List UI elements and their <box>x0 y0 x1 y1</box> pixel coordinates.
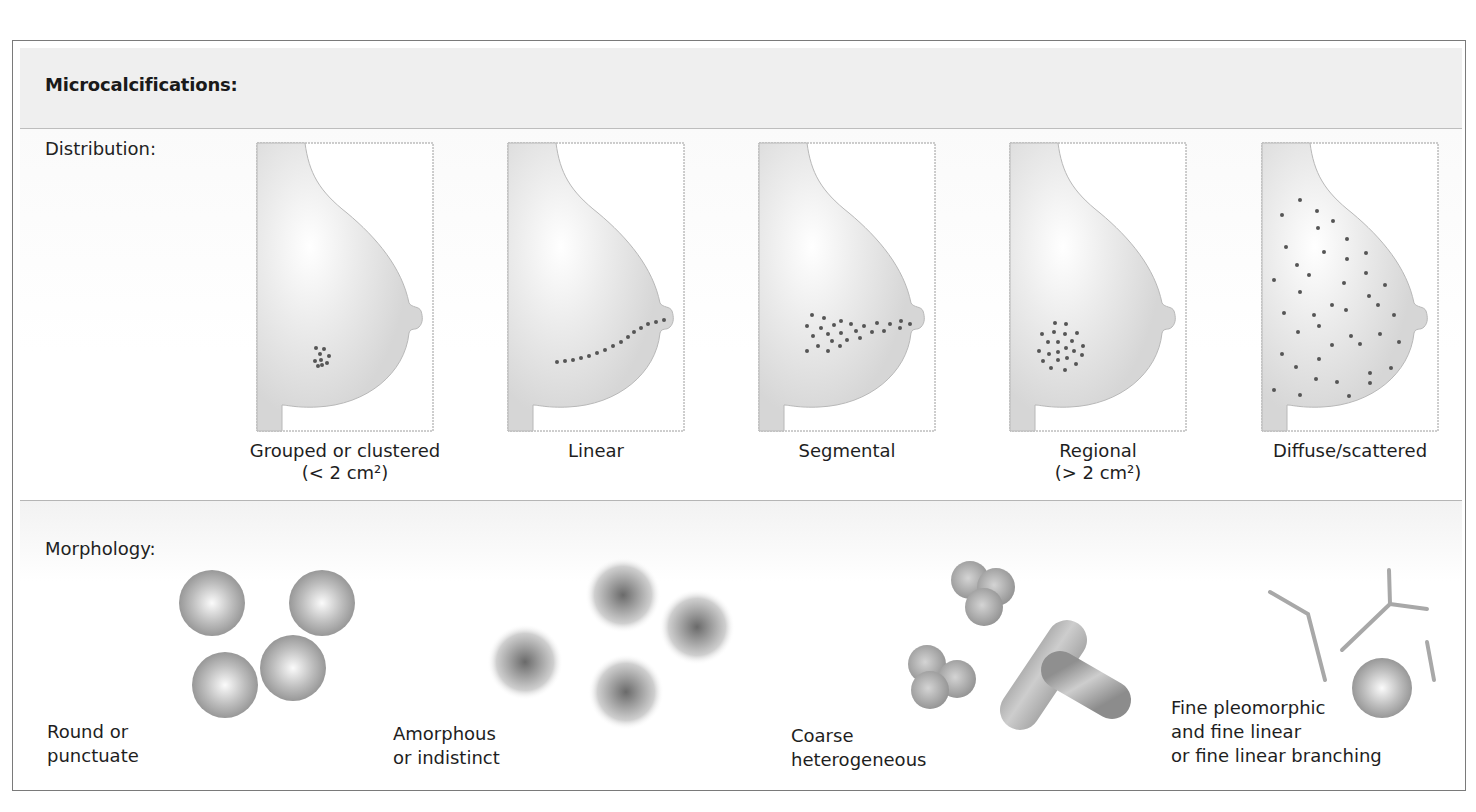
panel-segmental <box>759 143 935 431</box>
caption-grouped: Grouped or clustered (< 2 cm²) <box>230 440 460 484</box>
caption-regional: Regional (> 2 cm²) <box>1010 440 1186 484</box>
caption-line: Segmental <box>759 440 935 462</box>
caption-linear: Linear <box>508 440 684 462</box>
caption-line: Amorphous <box>393 722 500 746</box>
panel-linear <box>508 143 684 431</box>
caption-line: punctuate <box>47 744 139 768</box>
caption-line: (> 2 cm²) <box>1010 462 1186 484</box>
caption-line: Linear <box>508 440 684 462</box>
caption-amorphous: Amorphous or indistinct <box>393 722 500 770</box>
caption-line: or fine linear branching <box>1171 744 1382 768</box>
caption-line: or indistinct <box>393 746 500 770</box>
caption-fine: Fine pleomorphic and fine linear or fine… <box>1171 696 1382 768</box>
caption-round: Round or punctuate <box>47 720 139 768</box>
caption-line: Diffuse/scattered <box>1250 440 1450 462</box>
morph-round-illustration <box>179 570 355 718</box>
caption-segmental: Segmental <box>759 440 935 462</box>
caption-line: Round or <box>47 720 139 744</box>
caption-coarse: Coarse heterogeneous <box>791 724 926 772</box>
caption-line: Regional <box>1010 440 1186 462</box>
caption-line: heterogeneous <box>791 748 926 772</box>
morph-coarse-illustration <box>908 561 1112 710</box>
caption-diffuse: Diffuse/scattered <box>1250 440 1450 462</box>
caption-line: Fine pleomorphic <box>1171 696 1382 720</box>
caption-line: (< 2 cm²) <box>230 462 460 484</box>
panel-grouped <box>257 143 433 431</box>
caption-line: Grouped or clustered <box>230 440 460 462</box>
illustrations <box>0 0 1476 812</box>
caption-line: Coarse <box>791 724 926 748</box>
panel-diffuse <box>1262 143 1438 431</box>
morph-amorphous-illustration <box>487 557 735 730</box>
panel-regional <box>1010 143 1186 431</box>
caption-line: and fine linear <box>1171 720 1382 744</box>
